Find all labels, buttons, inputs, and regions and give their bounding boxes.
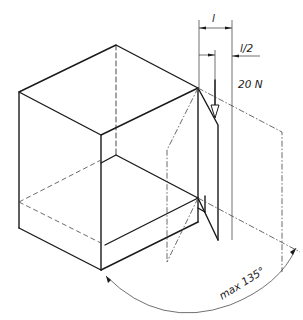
- cabinet-body: [19, 45, 205, 270]
- hidden-lines: [19, 160, 101, 243]
- force-arrow: 20 N: [211, 78, 263, 118]
- dimension-l: l: [199, 12, 232, 240]
- angle-arc: max 135°: [106, 248, 296, 313]
- dim-l-label: l: [212, 12, 215, 24]
- angle-label: max 135°: [217, 264, 267, 301]
- cabinet-door-diagram: l l/2 20 N max 135°: [0, 0, 303, 320]
- force-label: 20 N: [238, 78, 263, 90]
- dim-l-half-label: l/2: [240, 42, 253, 54]
- door-closed-outline: [167, 88, 300, 272]
